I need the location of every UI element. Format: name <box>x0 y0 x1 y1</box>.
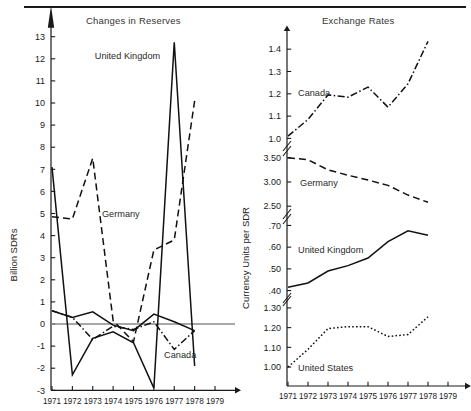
right-y-tick-label: 3.50 <box>263 153 281 163</box>
left-series-label-germany: Germany <box>102 209 140 219</box>
right-series-united-kingdom <box>288 231 428 287</box>
left-x-tick-label: 1972 <box>63 397 82 406</box>
left-x-axis-arrow <box>235 387 241 393</box>
charts-canvas: -3-2-10123456789101112131971197219731974… <box>0 0 471 411</box>
right-y-tick-label: 2.50 <box>263 201 281 211</box>
left-y-tick-label: 10 <box>35 98 45 108</box>
right-y-tick-label: 1.2 <box>268 89 281 99</box>
left-y-tick-label: 0 <box>40 319 45 329</box>
left-y-tick-label: 8 <box>40 142 45 152</box>
left-y-tick-label: 9 <box>40 120 45 130</box>
right-y-tick-label: .40 <box>268 286 281 296</box>
left-x-tick-label: 1974 <box>104 397 123 406</box>
left-y-tick-label: 7 <box>40 165 45 175</box>
left-y-tick-label: 4 <box>40 231 45 241</box>
right-y-axis-arrow <box>284 26 290 32</box>
left-series-germany <box>52 101 195 342</box>
left-series-united-kingdom-secondary-segment <box>52 311 195 331</box>
left-x-tick-label: 1978 <box>186 397 205 406</box>
right-series-label-canada: Canada <box>298 88 331 98</box>
left-y-tick-label: 12 <box>35 54 45 64</box>
left-y-tick-label: 5 <box>40 209 45 219</box>
left-y-tick-label: 3 <box>40 253 45 263</box>
right-x-tick-label: 1974 <box>339 392 358 401</box>
left-y-tick-label: 6 <box>40 187 45 197</box>
right-y-tick-label: 1.30 <box>263 303 281 313</box>
right-y-tick-label: 3.00 <box>263 177 281 187</box>
right-series-united-states <box>288 317 428 367</box>
right-x-tick-label: 1979 <box>439 392 458 401</box>
right-y-tick-label: .70 <box>268 221 281 231</box>
left-y-axis-arrow <box>48 6 54 28</box>
right-x-tick-label: 1971 <box>279 392 298 401</box>
right-x-tick-label: 1978 <box>419 392 438 401</box>
left-y-tick-label: -1 <box>37 341 45 351</box>
left-x-tick-label: 1975 <box>124 397 143 406</box>
left-y-tick-label: -2 <box>37 363 45 373</box>
left-y-tick-label: 13 <box>35 32 45 42</box>
right-x-tick-label: 1972 <box>299 392 318 401</box>
right-y-tick-label: 1.10 <box>263 343 281 353</box>
right-x-tick-label: 1977 <box>399 392 418 401</box>
left-x-tick-label: 1971 <box>43 397 62 406</box>
figure-root: Changes in Reserves Exchange Rates -3-2-… <box>0 0 471 411</box>
right-y-tick-label: 1.00 <box>263 362 281 372</box>
right-y-tick-label: 1.0 <box>268 134 281 144</box>
right-y-axis-label: Currency Units per SDR <box>240 207 251 309</box>
right-x-tick-label: 1976 <box>379 392 398 401</box>
right-y-tick-label: 1.4 <box>268 44 281 54</box>
right-x-tick-label: 1975 <box>359 392 378 401</box>
right-y-tick-label: 1.20 <box>263 323 281 333</box>
left-y-axis-label: Billion SDRs <box>8 228 19 281</box>
left-y-tick-label: 1 <box>40 297 45 307</box>
left-series-label-canada: Canada <box>164 350 197 360</box>
left-y-tick-label: 11 <box>36 76 45 86</box>
right-series-label-united-kingdom: United Kingdom <box>298 245 364 255</box>
left-y-tick-label: 2 <box>40 275 45 285</box>
left-y-tick-label: -3 <box>37 386 45 396</box>
left-x-tick-label: 1973 <box>84 397 103 406</box>
right-x-axis-arrow <box>465 383 471 389</box>
left-x-tick-label: 1979 <box>206 397 225 406</box>
right-y-tick-label: .50 <box>268 264 281 274</box>
right-y-tick-label: .60 <box>268 242 281 252</box>
left-x-tick-label: 1976 <box>145 397 164 406</box>
right-y-tick-label: 1.1 <box>268 111 281 121</box>
right-x-tick-label: 1973 <box>319 392 338 401</box>
left-series-label-united-kingdom: United Kingdom <box>95 51 161 61</box>
left-x-tick-label: 1977 <box>165 397 184 406</box>
right-series-label-united-states: United States <box>298 363 354 373</box>
right-y-tick-label: 1.3 <box>268 67 281 77</box>
right-series-label-germany: Germany <box>300 178 338 188</box>
